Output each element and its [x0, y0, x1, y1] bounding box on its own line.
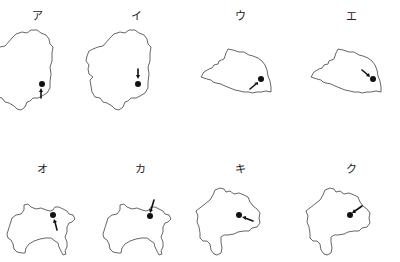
map-panel-a [0, 30, 53, 110]
prefecture-outline [196, 188, 260, 255]
map-panel-u [201, 49, 271, 93]
prefecture-outline [0, 30, 53, 110]
map-panel-o [7, 204, 75, 255]
prefecture-outline [311, 49, 381, 93]
location-dot [39, 81, 45, 87]
map-panel-e [311, 49, 381, 93]
map-panel-ka [103, 200, 171, 255]
location-dot [347, 212, 353, 218]
location-dot [50, 212, 56, 218]
figure-canvas [0, 0, 400, 262]
prefecture-outline [86, 30, 151, 110]
prefecture-outline [103, 204, 171, 255]
map-panel-ki [196, 188, 260, 255]
prefecture-outline [306, 188, 370, 255]
location-dot [236, 212, 242, 218]
prefecture-outline [7, 204, 75, 255]
location-dot [135, 81, 141, 87]
prefecture-outline [201, 49, 271, 93]
map-panel-i [86, 30, 151, 110]
location-dot [258, 76, 264, 82]
map-panel-ku [306, 188, 370, 255]
location-dot [370, 76, 376, 82]
location-dot [147, 213, 153, 219]
